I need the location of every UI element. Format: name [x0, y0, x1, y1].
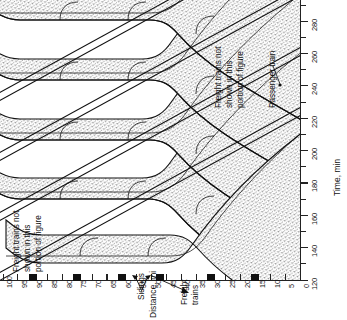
time-tick-major [301, 215, 308, 216]
time-tick-major [301, 150, 308, 151]
time-tick-major [301, 118, 308, 119]
time-tick-minor [301, 134, 306, 135]
time-tick-major [301, 53, 308, 54]
time-tick-major [301, 182, 308, 183]
time-tick-minor [301, 166, 306, 167]
time-tick-minor [301, 5, 306, 6]
time-tick-label: 220 [311, 116, 319, 128]
passenger-train-callout: Passenger train [268, 51, 278, 108]
figure-root: 0510152025303540455055606570758085909510… [0, 0, 347, 320]
time-tick-label: 240 [311, 83, 319, 95]
time-axis-title: Time, min [332, 159, 342, 196]
time-tick-label: 180 [311, 180, 319, 192]
time-tick-label: 260 [311, 51, 319, 63]
time-tick-label: 280 [311, 19, 319, 31]
time-tick-major [301, 85, 308, 86]
time-tick-minor [301, 37, 306, 38]
time-tick-label: 200 [311, 148, 319, 160]
right-note-line2: shown in this [225, 61, 236, 108]
plot-area [0, 0, 301, 280]
band-group [0, 0, 301, 280]
stringline-plot-svg [0, 0, 301, 280]
passenger-callout-dot [278, 83, 281, 86]
time-axis-line [300, 0, 301, 281]
time-tick-minor [301, 231, 306, 232]
right-note-line3: portion of figure [236, 51, 247, 108]
time-tick-minor [301, 102, 306, 103]
right-note-line1: Freight trains not [214, 47, 225, 108]
time-tick-label: 160 [311, 213, 319, 225]
time-tick-major [301, 21, 308, 22]
time-tick-minor [301, 199, 306, 200]
time-tick-minor [301, 69, 306, 70]
sidings-leader-lines [0, 246, 347, 306]
